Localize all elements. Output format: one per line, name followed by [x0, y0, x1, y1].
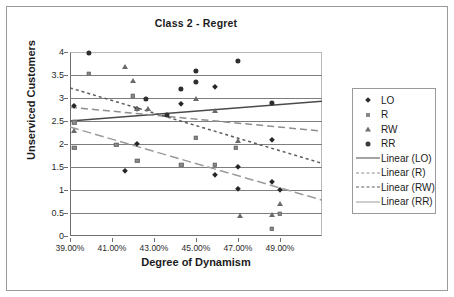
y-axis-tick-label: 1 [30, 185, 64, 195]
legend-key [356, 108, 380, 122]
legend-label: R [380, 109, 388, 120]
legend-entry: Linear (RR) [356, 195, 432, 210]
legend-entry: Linear (RW) [356, 180, 432, 195]
legend-key [356, 93, 380, 107]
legend-label: Linear (RW) [380, 182, 435, 193]
data-point-r [87, 72, 91, 76]
legend-entry: R [356, 108, 432, 123]
legend-label: RW [380, 124, 397, 135]
data-point-r [114, 142, 118, 146]
chart-figure: Class 2 - Regret Unserviced Customers 00… [0, 0, 454, 297]
x-axis-tick-labels: 39.00%41.00%43.00%45.00%47.00%49.00% [70, 238, 322, 252]
x-axis-tick-label: 49.00% [257, 243, 303, 253]
legend-marker-circle [366, 141, 371, 146]
x-axis-tick-mark [280, 238, 281, 242]
y-axis-tick-mark [64, 144, 68, 145]
x-axis-tick-mark [154, 238, 155, 242]
legend-label: RR [380, 138, 395, 149]
y-axis-tick-label: 3.5 [30, 70, 64, 80]
legend-entry: LO [356, 93, 432, 108]
legend-key [356, 166, 380, 180]
data-point-rw [235, 138, 241, 143]
y-axis-tick-label: 2 [30, 139, 64, 149]
legend-line-dash [356, 172, 380, 173]
x-axis-tick-mark [196, 238, 197, 242]
data-point-rw [269, 212, 275, 217]
data-point-rw [237, 213, 243, 218]
legend-line-solid [356, 158, 380, 159]
y-axis-tick-mark [64, 167, 68, 168]
legend-key [356, 180, 380, 194]
legend-label: LO [380, 95, 394, 106]
y-axis-tick-mark [64, 190, 68, 191]
plot-area-wrapper [70, 52, 322, 236]
y-axis-tick-mark [64, 98, 68, 99]
data-point-r [269, 227, 273, 231]
y-axis-tick-mark [64, 121, 68, 122]
legend-marker-diamond [365, 97, 371, 103]
data-point-rw [130, 78, 136, 83]
data-point-rw [134, 106, 140, 111]
legend-marker-square [366, 113, 370, 117]
legend-entry: RR [356, 137, 432, 152]
y-axis-tick-mark [64, 213, 68, 214]
legend-key [356, 122, 380, 136]
data-point-r [213, 162, 217, 166]
legend-entry: Linear (R) [356, 166, 432, 181]
legend-entry: RW [356, 122, 432, 137]
x-axis-tick-label: 47.00% [215, 243, 261, 253]
data-point-r [135, 158, 139, 162]
data-point-rw [71, 128, 77, 133]
legend-entry: Linear (LO) [356, 151, 432, 166]
data-point-r [234, 145, 238, 149]
legend-label: Linear (R) [380, 167, 425, 178]
x-axis-title: Degree of Dynamism [70, 256, 322, 268]
legend-label: Linear (RR) [380, 196, 433, 207]
x-axis-tick-label: 45.00% [173, 243, 219, 253]
data-point-rw [145, 106, 151, 111]
x-axis-tick-label: 39.00% [47, 243, 93, 253]
data-point-r [194, 136, 198, 140]
legend-line-dashdot [356, 201, 380, 202]
y-axis-tick-labels: 00.511.522.533.54 [28, 52, 64, 236]
data-point-rw [122, 64, 128, 69]
x-axis-tick-label: 43.00% [131, 243, 177, 253]
x-axis-tick-label: 41.00% [89, 243, 135, 253]
y-axis-tick-label: 1.5 [30, 162, 64, 172]
legend-label: Linear (LO) [380, 153, 432, 164]
y-axis-tick-label: 3 [30, 93, 64, 103]
y-axis-tick-label: 2.5 [30, 116, 64, 126]
y-axis-tick-mark [64, 52, 68, 53]
x-axis-tick-mark [238, 238, 239, 242]
data-point-r [72, 145, 76, 149]
data-point-r [72, 120, 76, 124]
chart-title: Class 2 - Regret [70, 17, 322, 29]
legend-key [356, 151, 380, 165]
data-point-r [179, 162, 183, 166]
x-axis-tick-mark [70, 238, 71, 242]
data-point-rw [212, 108, 218, 113]
legend-key [356, 195, 380, 209]
y-axis-tick-label: 0 [30, 231, 64, 241]
data-point-rw [193, 96, 199, 101]
data-point-rw [277, 201, 283, 206]
y-axis-tick-mark [64, 236, 68, 237]
x-axis-tick-mark [112, 238, 113, 242]
y-axis-tick-label: 0.5 [30, 208, 64, 218]
chart-legend: LORRWRRLinear (LO)Linear (R)Linear (RW)L… [352, 88, 436, 214]
y-axis-tick-mark [64, 75, 68, 76]
data-point-r [131, 94, 135, 98]
data-point-r [278, 212, 282, 216]
legend-line-dot [356, 187, 380, 188]
legend-marker-triangle [365, 127, 371, 132]
y-axis-tick-label: 4 [30, 47, 64, 57]
legend-key [356, 137, 380, 151]
